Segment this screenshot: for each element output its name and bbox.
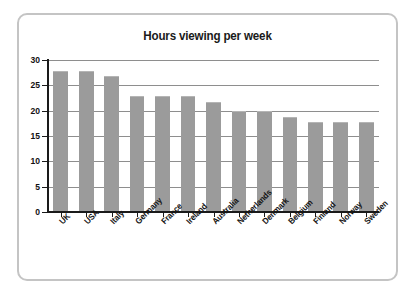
- y-tick-label: 30: [18, 54, 40, 65]
- bar: [308, 122, 323, 212]
- bar: [104, 76, 119, 212]
- y-tick: 30: [12, 54, 40, 66]
- chart-title: Hours viewing per week: [30, 29, 384, 43]
- bar: [79, 71, 94, 212]
- y-tick-label: 25: [18, 79, 40, 90]
- bar: [206, 102, 221, 212]
- chart-figure: Hours viewing per week 051015202530 UKUS…: [0, 0, 419, 299]
- y-tick: 10: [12, 155, 40, 167]
- y-tick: 0: [12, 206, 40, 218]
- y-tick-label: 20: [18, 105, 40, 116]
- y-tick: 25: [12, 79, 40, 91]
- bar: [130, 96, 145, 212]
- y-tick: 5: [12, 181, 40, 193]
- bar: [181, 96, 196, 212]
- y-tick-label: 5: [18, 181, 40, 192]
- plot-area: [48, 60, 379, 212]
- bar: [53, 71, 68, 212]
- bar: [359, 122, 374, 212]
- y-tick: 20: [12, 105, 40, 117]
- y-tick-label: 0: [18, 206, 40, 217]
- y-tick: 15: [12, 130, 40, 142]
- y-tick-label: 15: [18, 130, 40, 141]
- bar: [333, 122, 348, 212]
- y-tick-label: 10: [18, 155, 40, 166]
